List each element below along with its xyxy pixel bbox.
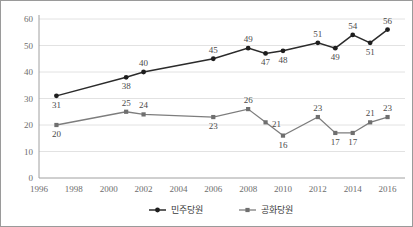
data-point-label: 24 <box>139 100 149 110</box>
y-axis-tick-label: 0 <box>29 173 34 183</box>
x-axis: 1996199820002002200420062008201020122014… <box>30 178 405 194</box>
data-labels: 3138404549474851495451562025242326211623… <box>52 16 393 150</box>
data-point-marker <box>54 93 59 98</box>
line-chart: 0102030405060 19961998200020022004200620… <box>1 1 413 227</box>
data-point-marker <box>211 56 216 61</box>
x-axis-tick-label: 2010 <box>274 184 293 194</box>
data-point-marker <box>246 46 251 51</box>
data-point-label: 20 <box>52 129 62 139</box>
data-point-marker <box>316 115 320 119</box>
legend-label-dem[interactable]: 민주당원 <box>171 205 203 215</box>
y-axis-tick-label: 20 <box>24 120 34 130</box>
data-point-marker <box>141 112 145 116</box>
chart-legend: 민주당원공화당원 <box>149 205 293 215</box>
data-series <box>54 27 390 138</box>
y-axis-tick-label: 50 <box>24 41 34 51</box>
data-point-marker <box>351 131 355 135</box>
data-point-label: 31 <box>52 100 61 110</box>
legend-marker-rep <box>245 208 249 212</box>
data-point-marker <box>315 40 320 45</box>
data-point-marker <box>385 27 390 32</box>
chart-container: 0102030405060 19961998200020022004200620… <box>0 0 413 227</box>
data-point-label: 56 <box>383 16 393 26</box>
data-point-label: 26 <box>244 95 254 105</box>
y-axis-tick-label: 60 <box>24 14 34 24</box>
data-point-label: 48 <box>279 55 289 65</box>
x-axis-tick-label: 2012 <box>309 184 327 194</box>
data-point-label: 54 <box>348 21 358 31</box>
data-point-label: 16 <box>279 140 289 150</box>
data-point-marker <box>281 134 285 138</box>
data-point-label: 45 <box>209 45 219 55</box>
legend-marker-dem <box>155 208 160 213</box>
x-axis-tick-label: 2000 <box>100 184 119 194</box>
data-point-marker <box>124 75 129 80</box>
x-axis-tick-label: 2016 <box>379 184 398 194</box>
data-point-label: 17 <box>331 137 341 147</box>
x-axis-tick-label: 2008 <box>239 184 258 194</box>
data-point-label: 21 <box>272 119 281 129</box>
y-axis-tick-label: 40 <box>24 67 34 77</box>
data-point-label: 49 <box>331 52 341 62</box>
x-axis-tick-label: 2004 <box>169 184 188 194</box>
data-point-marker <box>211 115 215 119</box>
legend-label-rep[interactable]: 공화당원 <box>261 205 293 215</box>
y-axis-tick-label: 30 <box>24 94 34 104</box>
x-axis-tick-label: 2014 <box>344 184 363 194</box>
data-point-label: 40 <box>139 58 149 68</box>
data-point-label: 51 <box>366 47 375 57</box>
data-point-marker <box>333 46 338 51</box>
x-axis-tick-label: 1996 <box>30 184 49 194</box>
data-point-label: 49 <box>244 34 254 44</box>
data-point-label: 25 <box>122 98 132 108</box>
data-point-marker <box>281 48 286 53</box>
series-line-dem <box>56 30 387 96</box>
data-point-label: 23 <box>313 103 323 113</box>
data-point-marker <box>263 51 268 56</box>
data-point-marker <box>54 123 58 127</box>
data-point-label: 38 <box>122 81 132 91</box>
x-axis-tick-label: 2006 <box>204 184 223 194</box>
y-axis-tick-label: 10 <box>24 147 34 157</box>
x-axis-tick-label: 1998 <box>65 184 84 194</box>
data-point-marker <box>246 107 250 111</box>
data-point-marker <box>368 40 373 45</box>
data-point-label: 23 <box>383 103 393 113</box>
data-point-marker <box>385 115 389 119</box>
data-point-marker <box>141 70 146 75</box>
data-point-label: 17 <box>348 137 358 147</box>
data-point-marker <box>350 33 355 38</box>
data-point-label: 51 <box>313 29 322 39</box>
data-point-marker <box>333 131 337 135</box>
data-point-label: 21 <box>366 108 375 118</box>
data-point-marker <box>124 110 128 114</box>
series-line-rep <box>56 109 387 136</box>
data-point-marker <box>263 120 267 124</box>
data-point-label: 23 <box>209 121 219 131</box>
x-axis-tick-label: 2002 <box>135 184 153 194</box>
data-point-marker <box>368 120 372 124</box>
data-point-label: 47 <box>261 57 271 67</box>
y-axis: 0102030405060 <box>24 14 39 183</box>
